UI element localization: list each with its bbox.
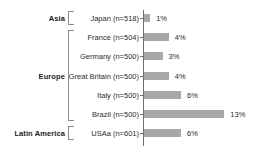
category-label: Italy (n=500) — [97, 90, 139, 99]
bar-value-label: 13% — [230, 110, 245, 119]
category-label: Brazil (n=500) — [92, 110, 139, 119]
bar-value-label: 3% — [169, 52, 180, 61]
group-label: Latin America — [14, 129, 65, 138]
bar-chart: AsiaEuropeLatin America Japan (n=518)Fra… — [0, 0, 262, 157]
group-bracket — [68, 11, 74, 25]
group-label: Asia — [49, 14, 65, 23]
bar — [144, 33, 169, 41]
bar — [144, 91, 181, 99]
category-label: France (n=504) — [88, 33, 140, 42]
category-label: Germany (n=500) — [80, 52, 139, 61]
category-label: Japan (n=518) — [90, 14, 139, 23]
bar — [144, 52, 163, 60]
group-label: Europe — [39, 71, 65, 80]
bar — [144, 129, 181, 137]
bar-value-label: 4% — [175, 71, 186, 80]
category-label: USAa (n=601) — [91, 129, 139, 138]
bar-value-label: 1% — [156, 14, 167, 23]
bar-value-label: 6% — [187, 90, 198, 99]
group-bracket — [68, 126, 74, 140]
bar-value-label: 6% — [187, 129, 198, 138]
bar — [144, 110, 224, 118]
category-label: Great Britain (n=500) — [69, 71, 139, 80]
bar — [144, 14, 150, 22]
bar-value-label: 4% — [175, 33, 186, 42]
bar — [144, 72, 169, 80]
